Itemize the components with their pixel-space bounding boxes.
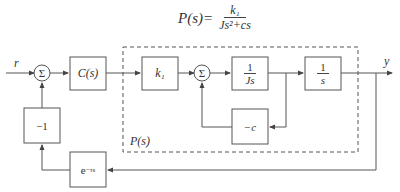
plant-label: P(s) (130, 134, 150, 149)
controller-block: C(s) (70, 57, 106, 90)
integrator-1-numerator: 1 (244, 61, 256, 74)
formula-lhs: P(s)= (178, 10, 213, 27)
input-signal-label: r (14, 56, 19, 71)
integrator-2-numerator: 1 (317, 61, 329, 74)
gain-block: k₁ (142, 57, 178, 90)
formula-denominator: Js²+cs (217, 18, 253, 32)
output-signal-label: y (384, 54, 389, 69)
feedback-gain-block: −1 (24, 108, 60, 143)
damping-block: −c (232, 109, 268, 144)
plant-transfer-function: P(s)= k₁ Js²+cs (178, 4, 253, 32)
formula-fraction: k₁ Js²+cs (217, 4, 253, 32)
summing-junction-1: Σ (34, 65, 50, 81)
integrator-1-denominator: Js (245, 74, 254, 86)
integrator-2-denominator: s (321, 74, 325, 86)
integrator-1-block: 1 Js (232, 57, 268, 90)
integrator-2-block: 1 s (305, 57, 341, 90)
formula-numerator: k₁ (224, 4, 246, 18)
delay-block: e−τs (70, 152, 106, 187)
delay-exponent: −τs (86, 166, 96, 174)
summing-junction-2: Σ (194, 65, 210, 81)
